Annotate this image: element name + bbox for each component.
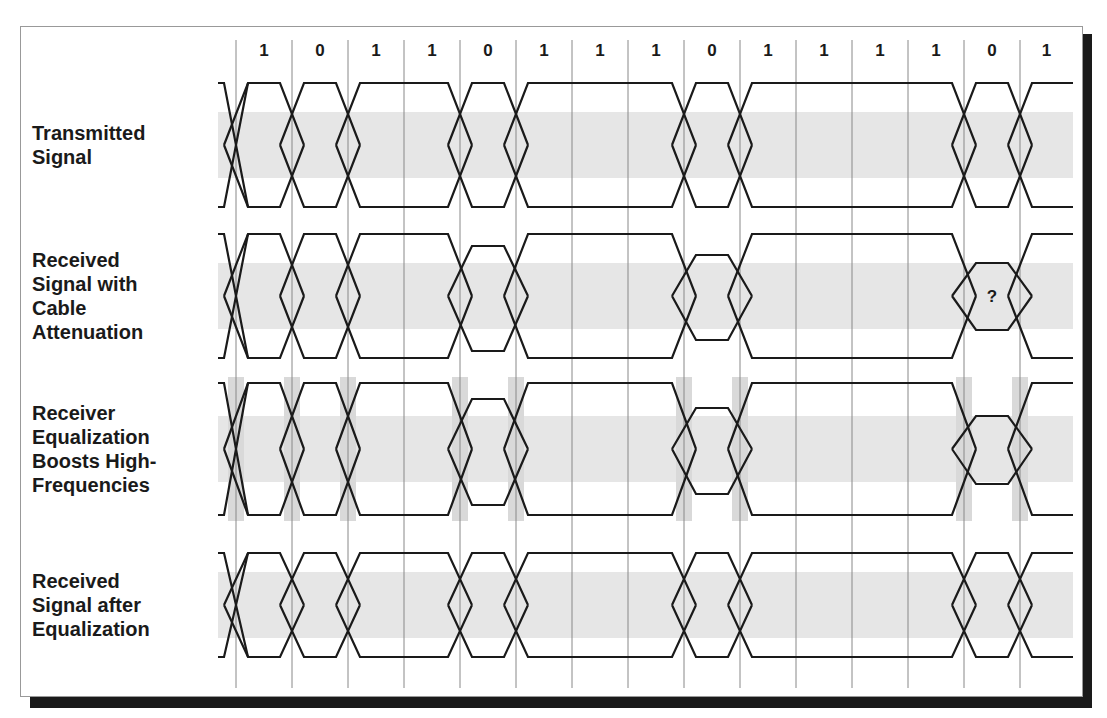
row-label-line: Boosts High-: [32, 450, 156, 472]
bit-label: 0: [987, 41, 996, 60]
bit-label: 1: [595, 41, 604, 60]
bit-label: 1: [427, 41, 436, 60]
row-label-line: Receiver: [32, 402, 116, 424]
bit-label: 0: [707, 41, 716, 60]
row-label-line: Received: [32, 570, 120, 592]
noise-band: [218, 112, 1073, 178]
row-label-line: Signal with: [32, 273, 138, 295]
row-label-line: Attenuation: [32, 321, 143, 343]
bit-labels: 101101110111101: [259, 41, 1051, 60]
row-label-line: Equalization: [32, 618, 150, 640]
row-label-line: Equalization: [32, 426, 150, 448]
bit-label: 1: [763, 41, 772, 60]
bit-label: 1: [371, 41, 380, 60]
bit-label: 0: [315, 41, 324, 60]
bit-label: 1: [651, 41, 660, 60]
noise-band: [218, 263, 1073, 329]
row-label-line: Signal: [32, 146, 92, 168]
bit-label: 1: [539, 41, 548, 60]
row-label-line: Frequencies: [32, 474, 150, 496]
bit-label: 1: [819, 41, 828, 60]
bit-label: 1: [259, 41, 268, 60]
row-label-line: Transmitted: [32, 122, 145, 144]
bit-label: 0: [483, 41, 492, 60]
bit-label: 1: [931, 41, 940, 60]
bit-label: 1: [875, 41, 884, 60]
row-label-line: Cable: [32, 297, 86, 319]
eye-diagram-figure: 101101110111101 ? TransmittedSignalRecei…: [0, 0, 1107, 718]
row-label-line: Received: [32, 249, 120, 271]
uncertain-bit-marker: ?: [987, 287, 997, 306]
bit-label: 1: [1042, 41, 1051, 60]
row-label-line: Signal after: [32, 594, 141, 616]
